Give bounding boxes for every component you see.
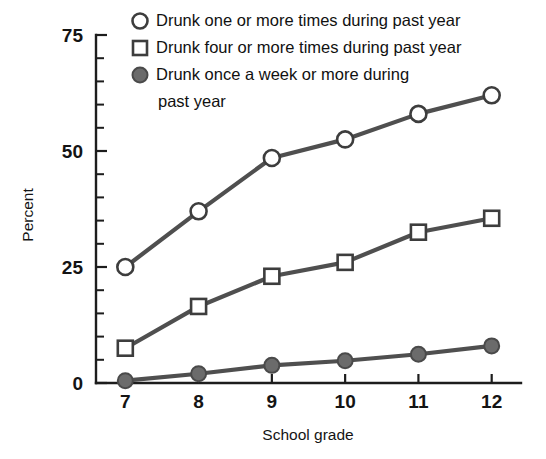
x-axis-title: School grade: [262, 426, 353, 443]
data-point-open-square: [411, 225, 426, 240]
data-point-open-square: [484, 211, 499, 226]
data-point-open-square: [338, 255, 353, 270]
data-point-open-circle: [191, 203, 207, 219]
data-point-filled-circle: [191, 366, 206, 381]
chart-legend: Drunk one or more times during past year…: [133, 11, 462, 110]
data-point-open-circle: [264, 150, 280, 166]
data-point-open-circle: [410, 106, 426, 122]
legend-marker-open-circle: [133, 14, 148, 29]
data-point-filled-circle: [264, 358, 279, 373]
data-point-open-square: [191, 299, 206, 314]
line-chart: 0255075 789101112 Percent School grade D…: [0, 0, 546, 459]
y-tick-label: 50: [62, 141, 83, 162]
legend-label: Drunk four or more times during past yea…: [156, 38, 462, 56]
x-axis-tick-labels: 789101112: [120, 391, 502, 412]
legend-label: Drunk once a week or more during: [156, 65, 409, 83]
y-axis-tick-labels: 0255075: [62, 25, 84, 394]
x-tick-label: 9: [267, 391, 278, 412]
data-point-open-circle: [117, 259, 133, 275]
series-line: [125, 218, 491, 348]
series-group: [117, 87, 499, 388]
y-axis-title: Percent: [19, 188, 36, 242]
y-tick-label: 25: [62, 257, 84, 278]
legend-label: past year: [158, 92, 226, 110]
x-tick-label: 11: [408, 391, 429, 412]
data-point-open-circle: [337, 131, 353, 147]
x-tick-label: 12: [481, 391, 502, 412]
legend-marker-filled-circle: [133, 68, 148, 83]
data-point-open-circle: [484, 87, 500, 103]
legend-marker-open-square: [133, 41, 147, 55]
legend-label: Drunk one or more times during past year: [156, 11, 461, 29]
data-point-filled-circle: [411, 347, 426, 362]
series-line: [125, 346, 491, 381]
data-series: [118, 338, 499, 388]
x-tick-label: 10: [335, 391, 356, 412]
series-line: [125, 95, 491, 267]
data-point-filled-circle: [338, 353, 353, 368]
data-point-open-square: [118, 341, 133, 356]
y-axis-ticks: [96, 35, 107, 383]
chart-container: 0255075 789101112 Percent School grade D…: [0, 0, 546, 459]
data-point-filled-circle: [118, 373, 133, 388]
x-tick-label: 8: [193, 391, 204, 412]
y-tick-label: 75: [62, 25, 84, 46]
data-series: [117, 87, 499, 275]
data-point-open-square: [264, 269, 279, 284]
data-series: [118, 211, 499, 356]
data-point-filled-circle: [484, 338, 499, 353]
x-tick-label: 7: [120, 391, 131, 412]
y-tick-label: 0: [72, 373, 83, 394]
